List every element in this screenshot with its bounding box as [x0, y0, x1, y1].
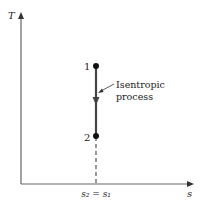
process-direction-arrow-icon	[93, 97, 100, 105]
y-axis-arrow-icon	[18, 12, 24, 19]
y-axis-label: T	[8, 10, 16, 21]
ts-diagram: T s 1 2 Isentropic process s₂ = s₁	[0, 0, 205, 204]
annotation-leader-line	[101, 84, 114, 91]
state-point-1	[93, 63, 99, 69]
annotation-arrow-icon	[98, 89, 104, 94]
process-label-line2: process	[116, 91, 153, 102]
x-axis-label: s	[187, 188, 192, 199]
state-point-2	[93, 133, 99, 139]
state-label-2: 2	[84, 132, 90, 143]
x-axis-arrow-icon	[187, 181, 194, 187]
process-label-line1: Isentropic	[116, 79, 165, 90]
state-label-1: 1	[84, 61, 90, 72]
x-tick-label: s₂ = s₁	[81, 189, 111, 199]
